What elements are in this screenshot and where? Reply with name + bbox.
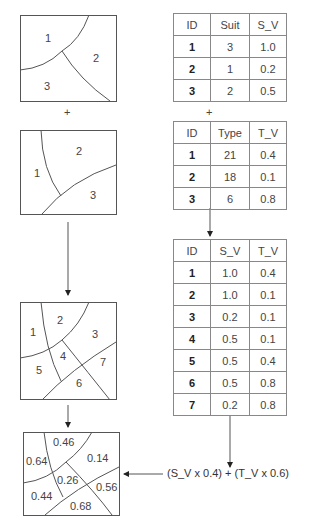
table-row: 21.00.1 (174, 284, 287, 306)
table-row: 30.20.1 (174, 306, 287, 328)
plus-sign-left: + (64, 106, 70, 118)
map2-region-2: 2 (76, 145, 82, 157)
table-row: 1 21 0.4 (174, 144, 287, 166)
weighted-formula: (S_V x 0.4) + (T_V x 0.6) (167, 467, 289, 479)
type-table: ID Type T_V 1 21 0.4 2 18 0.1 3 6 0.8 (173, 121, 287, 210)
table-row: 1 3 1.0 (174, 36, 287, 58)
table-row: 11.00.4 (174, 262, 287, 284)
header-t-v: T_V (250, 122, 287, 144)
header-id: ID (174, 14, 211, 36)
plus-sign-right: + (206, 106, 212, 118)
table-row: 40.50.1 (174, 328, 287, 350)
header-s-v: S_V (250, 14, 287, 36)
map4-value-7: 0.68 (70, 500, 91, 512)
header-id: ID (174, 240, 211, 262)
suit-table: ID Suit S_V 1 3 1.0 2 1 0.2 3 2 0.5 (173, 13, 287, 102)
map4-value-6: 0.56 (96, 481, 117, 493)
header-t-v: T_V (250, 240, 287, 262)
header-type: Type (211, 122, 250, 144)
map4-value-1: 0.64 (26, 455, 47, 467)
map4-value-4: 0.26 (57, 474, 78, 486)
map3-region-7: 7 (100, 356, 106, 368)
table-row: 2 1 0.2 (174, 58, 287, 80)
table-row: 2 18 0.1 (174, 166, 287, 188)
map4-value-2: 0.46 (53, 436, 74, 448)
table-row: 3 2 0.5 (174, 80, 287, 102)
map3-region-3: 3 (92, 328, 98, 340)
header-s-v: S_V (211, 240, 250, 262)
map3-region-5: 5 (36, 364, 42, 376)
map3-region-4: 4 (60, 350, 66, 362)
header-id: ID (174, 122, 211, 144)
map2-region-1: 1 (34, 167, 40, 179)
map1-region-3: 3 (44, 80, 50, 92)
combined-table: ID S_V T_V 11.00.4 21.00.1 30.20.1 40.50… (173, 239, 287, 416)
table-row: 60.50.8 (174, 372, 287, 394)
map1-region-1: 1 (45, 32, 51, 44)
map1-region-2: 2 (93, 52, 99, 64)
map3-region-6: 6 (76, 377, 82, 389)
map2-region-3: 3 (90, 189, 96, 201)
table-row: 70.20.8 (174, 394, 287, 416)
map1-frame (21, 16, 117, 102)
map3-region-1: 1 (30, 326, 36, 338)
map3-region-2: 2 (57, 314, 63, 326)
header-suit: Suit (211, 14, 250, 36)
map4-value-5: 0.44 (31, 490, 52, 502)
table-row: 3 6 0.8 (174, 188, 287, 210)
table-row: 50.50.4 (174, 350, 287, 372)
map4-value-3: 0.14 (87, 452, 108, 464)
